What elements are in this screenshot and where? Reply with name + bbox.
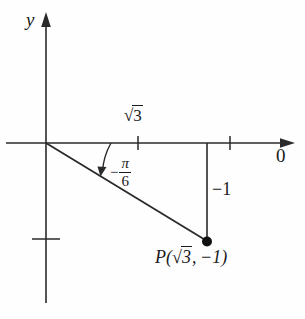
y-axis-arrowhead-icon [41, 12, 51, 27]
vertical-drop-label: −1 [212, 180, 231, 198]
diagram-canvas [0, 0, 305, 319]
angle-fraction-numerator: π [119, 156, 131, 172]
coordinate-plane-diagram: y 0 √3 −1 − π 6 P(√3, −1) [0, 0, 305, 319]
origin-zero-label: 0 [276, 146, 286, 165]
angle-label: − π 6 [110, 156, 131, 189]
point-p-paren-close: ) [221, 247, 227, 267]
y-axis-label: y [26, 10, 34, 29]
x-tick-label-sqrt3: √3 [124, 107, 143, 124]
radical-radicand: 3 [181, 246, 192, 267]
point-p-name: P [155, 247, 166, 267]
point-p-comma: , [192, 247, 200, 267]
radical-sqrt3: √3 [124, 107, 143, 124]
point-p-x-radical: √3 [172, 248, 192, 266]
point-p-marker [202, 237, 212, 247]
angle-fraction-denominator: 6 [119, 173, 131, 189]
radical-radicand: 3 [132, 105, 143, 125]
point-p-y-value: −1 [200, 247, 221, 267]
angle-minus-sign: − [110, 165, 119, 180]
point-p-label: P(√3, −1) [155, 248, 227, 266]
angle-fraction: π 6 [119, 156, 131, 189]
